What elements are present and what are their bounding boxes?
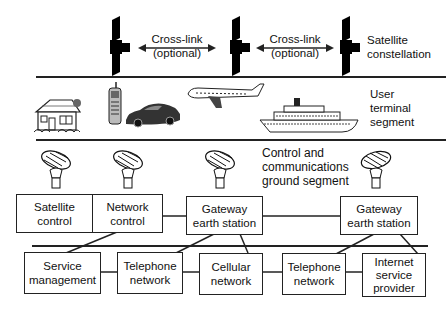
telephone-network-box-2: Telephonenetwork — [282, 253, 346, 295]
cellular-network-box: Cellularnetwork — [199, 253, 263, 295]
telephone-network-box-1: Telephonenetwork — [117, 252, 183, 294]
gateway-earth-station-box-2: Gatewayearth station — [340, 196, 418, 235]
network-control-box: Networkcontrol — [92, 194, 163, 233]
service-management-box: Servicemanagement — [24, 252, 101, 294]
satellite-control-box: Satellitecontrol — [16, 194, 93, 233]
internet-service-provider-box: Internetserviceprovider — [362, 253, 426, 297]
gateway-earth-station-box-1: Gatewayearth station — [186, 196, 263, 235]
